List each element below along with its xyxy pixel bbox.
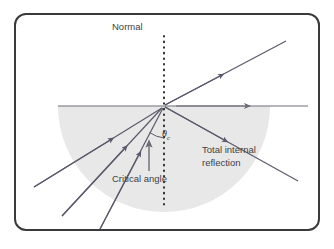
diagram-canvas <box>16 15 320 231</box>
figure-root: Normal θc Critical angle Total internalr… <box>0 0 334 249</box>
critical-angle-label: Critical angle <box>112 173 167 184</box>
diagram-frame: Normal θc Critical angle Total internalr… <box>14 13 320 231</box>
refracted-ray-arrow <box>165 75 222 105</box>
normal-label: Normal <box>112 21 143 32</box>
total-internal-reflection-label: Total internalreflection <box>202 143 282 169</box>
tir-label-line-2: reflection <box>202 157 241 168</box>
critical-angle-symbol-label: θc <box>162 128 170 142</box>
theta-subscript: c <box>167 134 170 142</box>
clipped-text-sliver <box>8 0 158 6</box>
tir-label-line-1: Total internal <box>202 144 256 155</box>
